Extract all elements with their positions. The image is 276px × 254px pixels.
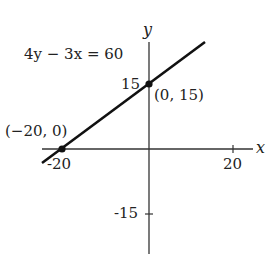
point-y-intercept bbox=[145, 80, 152, 87]
x-tick-label-20: 20 bbox=[223, 157, 242, 172]
point-label-x-intercept: (−20, 0) bbox=[5, 124, 67, 139]
graph-figure: 4y − 3x = 60 y x 15 -15 -20 20 (0, 15) (… bbox=[0, 0, 276, 254]
equation-label: 4y − 3x = 60 bbox=[24, 47, 123, 62]
x-axis-label: x bbox=[256, 140, 265, 156]
y-axis-label: y bbox=[143, 22, 152, 38]
point-x-intercept bbox=[58, 145, 65, 152]
y-tick-label-15: 15 bbox=[121, 77, 140, 92]
x-tick-label-neg20: -20 bbox=[47, 157, 71, 172]
y-tick-label-neg15: -15 bbox=[114, 206, 138, 221]
point-label-y-intercept: (0, 15) bbox=[154, 88, 204, 103]
